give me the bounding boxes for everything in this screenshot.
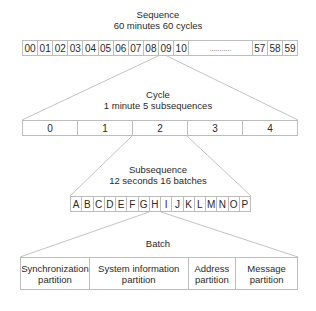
- batch-partition-address: Addresspartition: [189, 258, 237, 289]
- subsequence-cell: A: [71, 197, 82, 211]
- sequence-cell-expanded: 08: [144, 41, 159, 55]
- sequence-cell: 10: [174, 41, 189, 55]
- sequence-row: 00 01 02 03 04 05 06 07 08 09 10 .......…: [22, 40, 298, 56]
- sequence-cell: 03: [68, 41, 83, 55]
- cycle-subtitle: 1 minute 5 subsequences: [0, 100, 316, 111]
- subsequence-cell: M: [206, 197, 217, 211]
- sequence-subtitle: 60 minutes 60 cycles: [0, 20, 316, 31]
- subsequence-cell: L: [195, 197, 206, 211]
- partition-label: Synchronization: [21, 263, 89, 274]
- sequence-cell: 57: [253, 41, 268, 55]
- connector-subsequence-left: [20, 212, 149, 257]
- subsequence-title: Subsequence 12 seconds 16 batches: [0, 164, 316, 186]
- batch-row: Synchronizationpartition System informat…: [20, 257, 298, 290]
- batch-partition-message: Messagepartition: [236, 258, 298, 289]
- batch-title-text: Batch: [0, 238, 316, 249]
- sequence-cell: 09: [159, 41, 174, 55]
- cycle-title: Cycle 1 minute 5 subsequences: [0, 89, 316, 111]
- subsequence-title-text: Subsequence: [0, 164, 316, 175]
- cycle-cell: 3: [188, 121, 243, 135]
- cycle-cell: 1: [78, 121, 133, 135]
- connector-subsequence-right: [161, 212, 298, 257]
- subsequence-cell: F: [127, 197, 138, 211]
- subsequence-subtitle: 12 seconds 16 batches: [0, 175, 316, 186]
- sequence-cell: 58: [268, 41, 283, 55]
- partition-label: System information: [98, 263, 179, 274]
- cycle-cell: 0: [23, 121, 78, 135]
- sequence-cell: 00: [23, 41, 38, 55]
- subsequence-row: A B C D E F G H I J K L M N O P: [70, 196, 251, 212]
- subsequence-cell: E: [116, 197, 127, 211]
- subsequence-cell: D: [105, 197, 116, 211]
- subsequence-cell: N: [217, 197, 228, 211]
- sequence-title-text: Sequence: [0, 9, 316, 20]
- cycle-row: 0 1 2 3 4: [22, 120, 298, 136]
- sequence-title: Sequence 60 minutes 60 cycles: [0, 9, 316, 31]
- subsequence-cell: P: [240, 197, 251, 211]
- batch-title: Batch: [0, 238, 316, 249]
- sequence-cell: 02: [53, 41, 68, 55]
- subsequence-cell: C: [94, 197, 105, 211]
- cycle-cell-expanded: 2: [133, 121, 188, 135]
- subsequence-cell: I: [161, 197, 172, 211]
- sequence-cell: 59: [283, 41, 298, 55]
- partition-label: partition: [21, 274, 89, 285]
- cycle-cell: 4: [243, 121, 298, 135]
- partition-label: partition: [194, 274, 229, 285]
- sequence-cell: 06: [114, 41, 129, 55]
- partition-label: partition: [98, 274, 179, 285]
- batch-partition-system-information: System informationpartition: [90, 258, 189, 289]
- subsequence-cell: O: [229, 197, 240, 211]
- sequence-cell: 01: [38, 41, 53, 55]
- partition-label: partition: [247, 274, 286, 285]
- sequence-cell: 05: [99, 41, 114, 55]
- sequence-ellipsis: ...........: [189, 41, 253, 55]
- sequence-cell: 04: [83, 41, 98, 55]
- subsequence-cell: G: [139, 197, 150, 211]
- partition-label: Message: [247, 263, 286, 274]
- subsequence-cell-expanded: H: [150, 197, 161, 211]
- batch-partition-synchronization: Synchronizationpartition: [21, 258, 90, 289]
- subsequence-cell: B: [82, 197, 93, 211]
- subsequence-cell: K: [184, 197, 195, 211]
- partition-label: Address: [194, 263, 229, 274]
- subsequence-cell: J: [172, 197, 183, 211]
- sequence-cell: 07: [129, 41, 144, 55]
- cycle-title-text: Cycle: [0, 89, 316, 100]
